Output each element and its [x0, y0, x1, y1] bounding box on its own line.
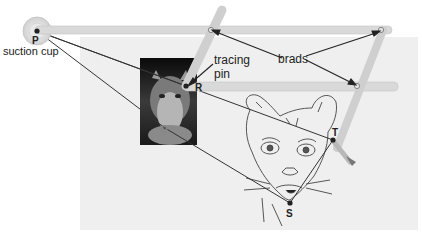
tracing-pin-label-line: tracing pin	[214, 53, 250, 81]
point-label-t: T	[332, 127, 338, 139]
suction-cup-label: suction cup	[3, 45, 59, 57]
point-label-s: S	[286, 208, 293, 220]
point-label-q: Q	[160, 124, 168, 136]
brads-label: brads	[278, 53, 308, 65]
tracing-pin-label: tracing pin	[214, 53, 254, 81]
pantograph-diagram: P suction cup tracing pin brads R Q T S	[0, 0, 422, 236]
point-label-r: R	[195, 82, 202, 94]
